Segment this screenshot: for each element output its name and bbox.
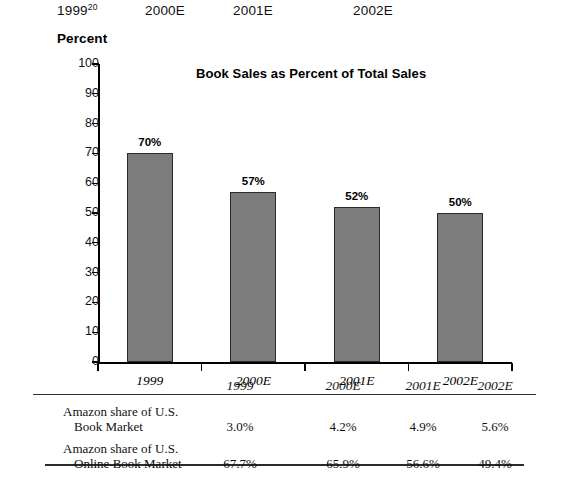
bar-chart: Book Sales as Percent of Total Sales 100… [0,0,569,400]
y-tick-label: 10 [65,324,99,338]
table-column-header: 2001E [391,378,455,394]
table-cell: 65.9% [311,456,375,472]
bar [437,213,483,362]
table-cell: 3.0% [208,419,272,435]
bar [334,207,380,362]
y-tick-label: 70 [65,145,99,159]
y-tick-label: 60 [65,175,99,189]
bar-value-label: 70% [120,136,180,148]
y-tick-label-wrap: 60 [48,175,99,176]
table-row-label-line1: Amazon share of U.S. [63,441,178,456]
y-tick-label: 90 [65,86,99,100]
data-table: 19992000E2001E2002E Amazon share of U.S.… [33,394,536,476]
x-tick [511,363,512,371]
y-tick-label: 0 [65,354,99,368]
bar-value-label: 52% [327,190,387,202]
table-cell: 4.2% [311,419,375,435]
table-cell: 4.9% [391,419,455,435]
table-cell: 67.7% [208,456,272,472]
x-tick [304,363,305,371]
table-column-header: 2002E [463,378,527,394]
y-tick-label: 30 [65,265,99,279]
y-tick-label: 50 [65,205,99,219]
bar-value-label: 57% [223,175,283,187]
chart-title: Book Sales as Percent of Total Sales [196,66,426,81]
y-tick-label: 40 [65,235,99,249]
y-tick-label-wrap: 80 [48,116,99,117]
y-tick-label: 100 [65,56,99,70]
y-tick-label-wrap: 30 [48,265,99,266]
table-column-header: 2000E [311,378,375,394]
y-tick-label-wrap: 70 [48,145,99,146]
y-tick-label-wrap: 20 [48,294,99,295]
bar [230,192,276,362]
y-tick-label-wrap: 40 [48,235,99,236]
x-category-label: 1999 [114,373,186,389]
y-tick-label-wrap: 50 [48,205,99,206]
table-cell: 56.6% [391,456,455,472]
x-tick [201,363,202,371]
y-tick-label: 80 [65,116,99,130]
bar [127,153,173,362]
table-cell: 5.6% [463,419,527,435]
y-tick-label-wrap: 0 [48,354,99,355]
table-rule-top [33,394,536,395]
y-tick-label: 20 [65,294,99,308]
x-tick [97,363,98,371]
x-tick [408,363,409,371]
table-cell: 49.4% [463,456,527,472]
y-tick-label-wrap: 10 [48,324,99,325]
table-row-label-line1: Amazon share of U.S. [63,404,178,419]
bar-value-label: 50% [430,196,490,208]
table-column-header: 1999 [208,378,272,394]
y-tick-label-wrap: 100 [48,56,99,57]
y-tick-label-wrap: 90 [48,86,99,87]
